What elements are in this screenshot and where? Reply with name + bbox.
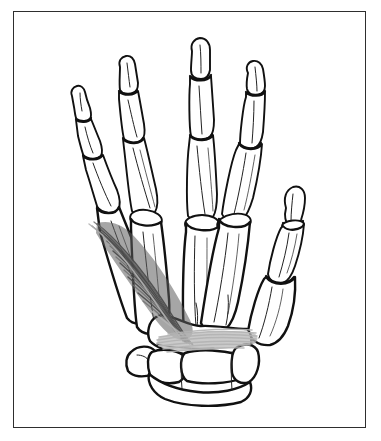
index-finger-proximal-phalanx (222, 144, 262, 221)
anatomy-figure-root: Line drawing of a hand skeleton showing … (0, 0, 381, 441)
thumb-proximal-phalanx (268, 224, 304, 284)
carpal-triquetrum (232, 345, 259, 383)
little-finger-middle-phalanx (76, 119, 102, 160)
digit-thumb (248, 187, 305, 346)
hand-skeleton-illustration: Line drawing of a hand skeleton showing … (0, 0, 381, 441)
